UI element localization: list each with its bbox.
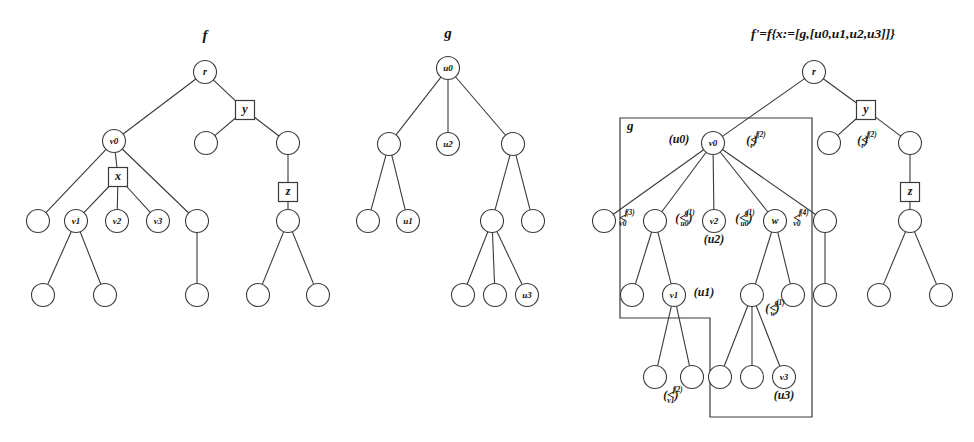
- tree-edge: [492, 232, 494, 283]
- tree-node-v2[interactable]: v2: [106, 210, 129, 233]
- tree-node-u2[interactable]: u2: [437, 133, 460, 156]
- tree-edge: [613, 150, 703, 215]
- tree-node[interactable]: [814, 284, 837, 307]
- node-circle-shape: [899, 210, 922, 233]
- tree-node-x[interactable]: x: [109, 168, 128, 187]
- tree-node[interactable]: [32, 284, 55, 307]
- tree-node[interactable]: [930, 284, 953, 307]
- tree-edge: [262, 232, 283, 285]
- node-circle-shape: [814, 284, 837, 307]
- tree-node-y[interactable]: y: [857, 101, 876, 120]
- tree-node[interactable]: [186, 284, 209, 307]
- tree-node-v2[interactable]: v2: [703, 210, 726, 233]
- tree-node-z[interactable]: z: [279, 183, 298, 202]
- tree-node-y[interactable]: y: [236, 101, 255, 120]
- node-circle-shape: [357, 210, 380, 233]
- tree-edge: [396, 77, 441, 135]
- node-circle-shape: [814, 210, 837, 233]
- tree-edge: [658, 306, 672, 366]
- tree-node[interactable]: [644, 210, 667, 233]
- tree-node[interactable]: [741, 366, 764, 389]
- node-circle-shape: [378, 133, 401, 156]
- tree-node[interactable]: [741, 284, 764, 307]
- tree-node[interactable]: [502, 133, 525, 156]
- tree-node[interactable]: [814, 210, 837, 233]
- annotation-ann-u3: (u3): [774, 388, 795, 402]
- tree-edge: [658, 232, 671, 284]
- tree-node[interactable]: [307, 284, 330, 307]
- tree-fprime-nodes: ryzv0v2wv1v3: [593, 61, 953, 389]
- tree-node[interactable]: [277, 210, 300, 233]
- g-region-label: g: [626, 118, 634, 133]
- annotation-ann-rtr: (<(2)fr): [857, 130, 877, 150]
- tree-edge: [635, 232, 651, 284]
- tree-node[interactable]: [357, 210, 380, 233]
- tree-node[interactable]: [709, 366, 732, 389]
- node-label: z: [907, 184, 913, 198]
- tree-edge: [213, 80, 235, 101]
- tree-node-v1[interactable]: v1: [65, 210, 88, 233]
- tree-node[interactable]: [818, 132, 841, 155]
- annotation-ann-u0g1: (<(1)gu0): [675, 208, 695, 228]
- tree-edge: [495, 155, 510, 210]
- tree-edge: [455, 77, 505, 136]
- tree-node[interactable]: [186, 210, 209, 233]
- tree-node-z[interactable]: z: [901, 183, 920, 202]
- tree-node-v3[interactable]: v3: [147, 210, 170, 233]
- node-label: u3: [522, 290, 532, 300]
- tree-node[interactable]: [593, 210, 616, 233]
- node-circle-shape: [782, 284, 805, 307]
- tree-node[interactable]: [621, 284, 644, 307]
- annotation-ann-u0g2: (<(1)gu0): [735, 208, 755, 228]
- tree-edge: [722, 150, 815, 215]
- tree-node[interactable]: [899, 132, 922, 155]
- tree-node[interactable]: [27, 210, 50, 233]
- node-circle-shape: [741, 284, 764, 307]
- tree-edge: [122, 149, 188, 213]
- tree-node[interactable]: [484, 284, 507, 307]
- tree-node[interactable]: [522, 210, 545, 233]
- tree-node-v3[interactable]: v3: [773, 366, 796, 389]
- tree-node[interactable]: [277, 132, 300, 155]
- annotation-ann-u2: (u2): [704, 232, 725, 246]
- tree-f-title: f: [203, 27, 210, 43]
- tree-node[interactable]: [378, 133, 401, 156]
- node-label: v1: [72, 216, 81, 226]
- tree-edge: [371, 155, 386, 210]
- node-circle-shape: [709, 366, 732, 389]
- tree-node[interactable]: [868, 284, 891, 307]
- tree-node-r[interactable]: r: [194, 61, 217, 84]
- tree-node[interactable]: [782, 284, 805, 307]
- tree-node[interactable]: [481, 210, 504, 233]
- annotation-ann-ltr: (<(2)fr): [746, 130, 766, 150]
- tree-node[interactable]: [681, 366, 704, 389]
- tree-node[interactable]: [94, 284, 117, 307]
- tree-node-u3[interactable]: u3: [516, 284, 539, 307]
- node-circle-shape: [818, 132, 841, 155]
- node-label: u0: [443, 63, 453, 73]
- tree-edge: [80, 232, 101, 285]
- tree-node-v0[interactable]: v0: [103, 130, 126, 153]
- tree-node[interactable]: [195, 132, 218, 155]
- tree-node[interactable]: [452, 284, 475, 307]
- tree-edge: [676, 306, 689, 366]
- tree-edge: [722, 79, 804, 137]
- node-label: x: [114, 169, 121, 183]
- tree-node-r[interactable]: r: [803, 61, 826, 84]
- tree-edge: [662, 152, 706, 212]
- node-label: y: [240, 102, 248, 116]
- tree-node-u0[interactable]: u0: [437, 57, 460, 80]
- tree-edge: [724, 306, 748, 367]
- node-circle-shape: [277, 210, 300, 233]
- tree-edge: [497, 231, 522, 284]
- tree-edge: [392, 155, 405, 210]
- tree-node-v0[interactable]: v0: [702, 132, 725, 155]
- tree-node[interactable]: [644, 366, 667, 389]
- tree-node[interactable]: [899, 210, 922, 233]
- tree-node[interactable]: [247, 284, 270, 307]
- tree-node-w[interactable]: w: [764, 210, 787, 233]
- annotation-ann-rv0: <(4)fv0: [793, 208, 809, 228]
- tree-node-u1[interactable]: u1: [397, 210, 420, 233]
- node-circle-shape: [644, 366, 667, 389]
- tree-node-v1[interactable]: v1: [663, 284, 686, 307]
